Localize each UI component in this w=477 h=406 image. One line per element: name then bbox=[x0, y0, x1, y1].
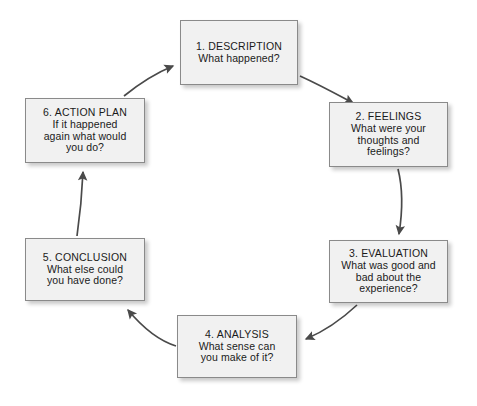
arrow-analysis-to-conclusion bbox=[128, 310, 176, 346]
node-body-line: What were your bbox=[351, 123, 426, 135]
arrow-evaluation-to-analysis bbox=[306, 305, 357, 339]
node-body: What else could you have done? bbox=[47, 264, 123, 288]
node-body-line: you do? bbox=[44, 142, 127, 154]
arrow-description-to-feelings bbox=[300, 76, 353, 103]
node-title: 6. ACTION PLAN bbox=[43, 107, 127, 119]
node-feelings: 2. FEELINGS What were your thoughts and … bbox=[329, 102, 448, 167]
node-body: What was good and bad about the experien… bbox=[341, 260, 436, 295]
arrow-feelings-to-evaluation bbox=[398, 169, 402, 234]
node-title: 1. DESCRIPTION bbox=[196, 41, 282, 53]
node-body-line: What happened? bbox=[198, 53, 279, 65]
node-conclusion: 5. CONCLUSION What else could you have d… bbox=[25, 238, 145, 301]
node-title: 5. CONCLUSION bbox=[43, 252, 127, 264]
node-body-line: you have done? bbox=[47, 275, 123, 287]
arrow-action-plan-to-description bbox=[124, 66, 173, 96]
node-body-line: you make of it? bbox=[199, 352, 276, 364]
node-evaluation: 3. EVALUATION What was good and bad abou… bbox=[329, 240, 448, 303]
reflective-cycle-diagram: 1. DESCRIPTION What happened? 2. FEELING… bbox=[0, 0, 477, 406]
node-body-line: If it happened bbox=[44, 119, 127, 131]
node-body-line: feelings? bbox=[351, 146, 426, 158]
node-title: 3. EVALUATION bbox=[349, 248, 428, 260]
node-description: 1. DESCRIPTION What happened? bbox=[180, 20, 298, 85]
node-body: If it happened again what would you do? bbox=[44, 119, 127, 154]
node-title: 2. FEELINGS bbox=[356, 111, 422, 123]
node-action-plan: 6. ACTION PLAN If it happened again what… bbox=[25, 98, 145, 163]
node-body-line: What was good and bbox=[341, 260, 436, 272]
node-body: What sense can you make of it? bbox=[199, 341, 276, 365]
node-body: What were your thoughts and feelings? bbox=[351, 123, 426, 158]
node-analysis: 4. ANALYSIS What sense can you make of i… bbox=[177, 315, 297, 378]
arrow-conclusion-to-action-plan bbox=[77, 172, 83, 236]
node-title: 4. ANALYSIS bbox=[205, 329, 269, 341]
node-body: What happened? bbox=[198, 53, 279, 65]
node-body-line: experience? bbox=[341, 283, 436, 295]
